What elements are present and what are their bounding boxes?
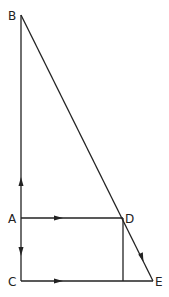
arrow-right-icon [54, 279, 63, 284]
arrow-down-icon [19, 247, 24, 256]
label-c: C [8, 275, 16, 289]
label-e: E [155, 275, 163, 289]
label-d: D [125, 212, 134, 226]
arrow-up-icon [19, 177, 24, 186]
label-b: B [8, 9, 16, 23]
arrow-right-icon [54, 216, 63, 221]
ray-diagram: B A C D E [0, 0, 169, 297]
label-a: A [8, 212, 17, 226]
segment-be [21, 15, 153, 281]
